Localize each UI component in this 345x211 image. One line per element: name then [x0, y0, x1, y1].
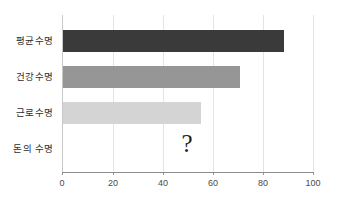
x-tick-label-40: 40 — [158, 177, 168, 189]
y-axis-label-1: 건강수명 — [0, 71, 53, 82]
question-mark-annotation: ? — [181, 131, 192, 156]
x-axis-tick-labels: 0 20 40 60 80 100 — [62, 177, 314, 193]
bar-chart: 평균수명 건강수명 근로수명 돈의 수명 ? 0 20 40 60 80 100 — [0, 0, 345, 211]
y-axis-label-0: 평균수명 — [0, 35, 53, 46]
gridline-100 — [313, 15, 314, 172]
y-axis-label-3: 돈의 수명 — [0, 143, 53, 154]
bar-healthy-lifespan — [63, 66, 240, 88]
x-tick-label-60: 60 — [208, 177, 218, 189]
bar-average-lifespan — [63, 30, 284, 52]
x-tick-label-0: 0 — [59, 177, 64, 189]
x-tick-label-80: 80 — [258, 177, 268, 189]
x-tick-label-20: 20 — [108, 177, 118, 189]
y-axis-label-2: 근로수명 — [0, 107, 53, 118]
plot-area: ? — [62, 15, 313, 172]
bar-working-lifespan — [63, 102, 201, 124]
x-axis-line — [62, 172, 314, 173]
x-tick-label-100: 100 — [305, 177, 320, 189]
y-axis-category-labels: 평균수명 건강수명 근로수명 돈의 수명 — [0, 15, 58, 172]
